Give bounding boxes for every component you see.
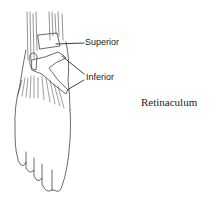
label-superior: Superior [85,37,119,47]
inferior-leader-line-upper [62,56,84,74]
superior-retinaculum [38,33,60,49]
label-inferior: Inferior [86,72,114,82]
inferior-leader-line-lower [67,80,84,90]
figure-caption: Retinaculum [141,96,197,108]
superior-leader-line [56,43,84,44]
foot-tendons [18,76,64,108]
inferior-retinaculum [32,52,68,94]
